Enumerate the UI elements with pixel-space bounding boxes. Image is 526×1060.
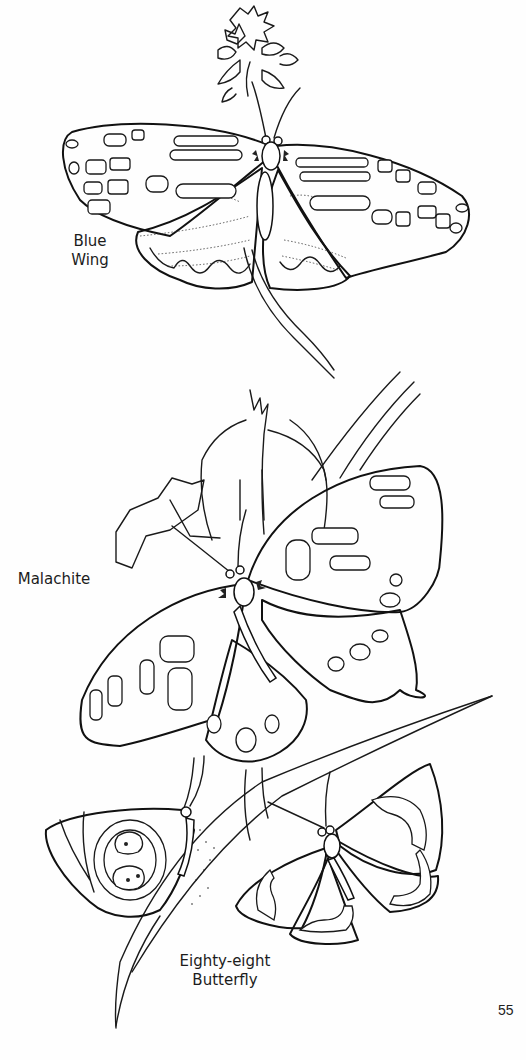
label-line: Eighty-eight <box>172 952 278 971</box>
label-line: Blue <box>62 232 118 251</box>
label-blue-wing: Blue Wing <box>62 232 118 270</box>
malachite-right-hindwing <box>262 600 425 702</box>
butterfly-body-icon <box>252 82 300 240</box>
line-art-illustration <box>0 0 526 1060</box>
page-number: 55 <box>498 1002 514 1018</box>
label-malachite: Malachite <box>12 570 96 589</box>
label-eighty-eight-butterfly: Eighty-eight Butterfly <box>172 952 278 990</box>
flower-spray-icon <box>218 6 298 102</box>
blue-wing-illustration <box>63 6 469 378</box>
label-line: Malachite <box>12 570 96 589</box>
label-line: Butterfly <box>172 971 278 990</box>
right-hindwing <box>263 170 350 290</box>
eighty-eight-left-forewing <box>236 848 326 928</box>
coloring-page: Blue Wing Malachite Eighty-eight Butterf… <box>0 0 526 1060</box>
malachite-illustration <box>80 372 442 761</box>
label-line: Wing <box>62 251 118 270</box>
eighty-eight-right-forewing <box>336 764 442 874</box>
